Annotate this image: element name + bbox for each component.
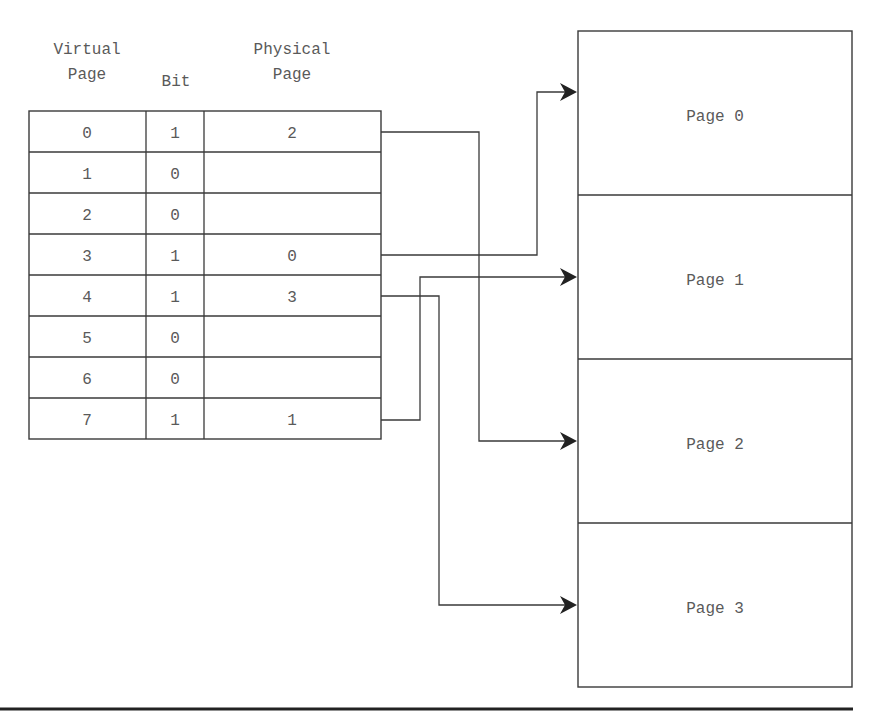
virtual-page-cell: 2 xyxy=(82,207,92,225)
header-physical-line1: Physical xyxy=(254,41,331,59)
physical-page-cell: 2 xyxy=(287,125,297,143)
frame-label-page-0: Page 0 xyxy=(686,108,744,126)
virtual-page-cell: 1 xyxy=(82,166,92,184)
header-virtual-line2: Page xyxy=(68,66,106,84)
virtual-page-cell: 6 xyxy=(82,371,92,389)
valid-bit-cell: 1 xyxy=(170,412,180,430)
valid-bit-cell: 0 xyxy=(170,166,180,184)
table-headers: Virtual Page Bit Physical Page xyxy=(53,41,330,91)
mapping-arrow-v3-p0 xyxy=(381,92,568,255)
frame-label-page-3: Page 3 xyxy=(686,600,744,618)
physical-memory: Page 0 Page 1 Page 2 Page 3 xyxy=(578,31,852,687)
virtual-page-cell: 3 xyxy=(82,248,92,266)
virtual-page-cell: 4 xyxy=(82,289,92,307)
mapping-arrow-v4-p3 xyxy=(381,296,568,605)
header-physical-line2: Page xyxy=(273,66,311,84)
virtual-page-cell: 7 xyxy=(82,412,92,430)
page-table: 0 1 2 1 0 2 0 3 1 0 4 1 3 5 0 xyxy=(29,111,381,439)
valid-bit-cell: 0 xyxy=(170,207,180,225)
header-bit: Bit xyxy=(162,73,191,91)
physical-page-cell: 3 xyxy=(287,289,297,307)
valid-bit-cell: 0 xyxy=(170,371,180,389)
valid-bit-cell: 1 xyxy=(170,289,180,307)
virtual-page-cell: 0 xyxy=(82,125,92,143)
physical-page-cell: 1 xyxy=(287,412,297,430)
mapping-arrow-v0-p2 xyxy=(381,132,568,441)
mapping-arrows xyxy=(381,83,577,614)
valid-bit-cell: 1 xyxy=(170,248,180,266)
mapping-arrow-v7-p1 xyxy=(381,277,568,420)
virtual-page-cell: 5 xyxy=(82,330,92,348)
valid-bit-cell: 1 xyxy=(170,125,180,143)
valid-bit-cell: 0 xyxy=(170,330,180,348)
page-table-diagram: Virtual Page Bit Physical Page 0 1 2 1 0… xyxy=(0,0,881,716)
frame-label-page-2: Page 2 xyxy=(686,436,744,454)
frame-label-page-1: Page 1 xyxy=(686,272,744,290)
header-virtual-line1: Virtual xyxy=(53,41,120,59)
physical-page-cell: 0 xyxy=(287,248,297,266)
